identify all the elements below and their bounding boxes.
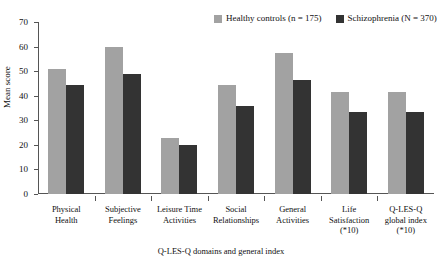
x-category-separator: [377, 196, 378, 201]
y-tick-label: 40: [19, 91, 28, 100]
bar: [123, 74, 141, 194]
plot-area: 010203040506070: [38, 22, 434, 194]
bar-group: [321, 22, 378, 194]
x-category-separator: [151, 196, 152, 201]
bar-group: [264, 22, 321, 194]
y-tick: 0: [34, 194, 38, 195]
y-tick-label: 10: [19, 165, 28, 174]
y-tick-label: 70: [19, 18, 28, 27]
bar: [331, 92, 349, 194]
bar: [349, 112, 367, 194]
bar: [105, 47, 123, 194]
x-category-separator: [264, 196, 265, 201]
bar: [218, 85, 236, 194]
bar-group: [38, 22, 95, 194]
bar: [179, 145, 197, 194]
x-axis-categories: PhysicalHealthSubjectiveFeelingsLeisure …: [38, 196, 434, 244]
x-category-separator: [95, 196, 96, 201]
bar: [388, 92, 406, 194]
x-category-label: SubjectiveFeelings: [95, 196, 152, 244]
x-category-label: Leisure TimeActivities: [151, 196, 208, 244]
bar: [48, 69, 66, 194]
x-category-label: GeneralActivities: [264, 196, 321, 244]
y-tick-label: 0: [24, 190, 29, 199]
bar-chart: Healthy controls (n = 175) Schizophrenia…: [0, 0, 442, 261]
bar: [236, 106, 254, 194]
x-category-label: Q-LES-Qglobal index(*10): [377, 196, 434, 244]
y-tick-label: 30: [19, 116, 28, 125]
x-category-label: LifeSatisfaction(*10): [321, 196, 378, 244]
y-tick-label: 60: [19, 42, 28, 51]
bar-group: [208, 22, 265, 194]
bar: [293, 80, 311, 194]
x-category-separator: [208, 196, 209, 201]
bar: [275, 53, 293, 194]
y-axis-title: Mean score: [2, 66, 12, 108]
bar: [406, 112, 424, 194]
bar-groups: [38, 22, 434, 194]
x-category-separator: [321, 196, 322, 201]
bar-group: [151, 22, 208, 194]
x-category-label: PhysicalHealth: [38, 196, 95, 244]
y-tick-label: 20: [19, 140, 28, 149]
bar: [66, 85, 84, 194]
x-axis-title: Q-LES-Q domains and general index: [0, 246, 442, 256]
bar: [161, 138, 179, 195]
y-tick-label: 50: [19, 67, 28, 76]
bar-group: [95, 22, 152, 194]
bar-group: [377, 22, 434, 194]
x-category-label: SocialRelationships: [208, 196, 265, 244]
